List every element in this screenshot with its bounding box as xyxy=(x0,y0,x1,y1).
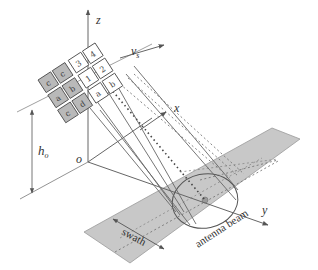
height-label: ho xyxy=(38,143,49,160)
x-axis-label: x xyxy=(173,101,180,115)
z-axis-label: z xyxy=(95,13,101,27)
origin-label: o xyxy=(76,152,82,166)
sensor-grid: c c 3 4 a b 1 2 xyxy=(38,43,123,123)
imaging-geometry-diagram: swath c c xyxy=(0,0,318,270)
ground-swath-strip xyxy=(84,128,300,263)
ground-baseline xyxy=(20,162,88,199)
velocity-label: vs xyxy=(131,44,139,60)
y-axis-label: y xyxy=(261,203,268,217)
velocity-vector xyxy=(120,45,164,58)
x-axis xyxy=(88,118,152,162)
